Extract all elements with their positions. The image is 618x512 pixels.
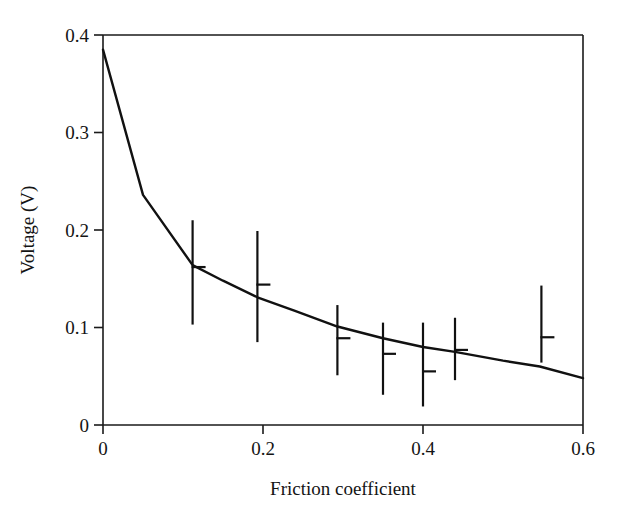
x-tick-label: 0.2 <box>251 438 275 459</box>
y-tick-label: 0 <box>80 415 90 436</box>
x-tick-label: 0.6 <box>571 438 595 459</box>
chart-figure: 00.10.20.30.4 00.20.40.6 Friction coeffi… <box>0 0 618 512</box>
x-axis-title: Friction coefficient <box>270 478 417 499</box>
y-tick-label: 0.3 <box>65 122 89 143</box>
x-tick-label: 0.4 <box>411 438 435 459</box>
x-tick-label: 0 <box>98 438 108 459</box>
chart-background <box>0 0 618 512</box>
y-tick-label: 0.1 <box>65 317 89 338</box>
y-tick-label: 0.2 <box>65 220 89 241</box>
voltage-vs-friction-chart: 00.10.20.30.4 00.20.40.6 Friction coeffi… <box>0 0 618 512</box>
y-axis-title: Voltage (V) <box>17 186 39 275</box>
y-tick-label: 0.4 <box>65 25 89 46</box>
